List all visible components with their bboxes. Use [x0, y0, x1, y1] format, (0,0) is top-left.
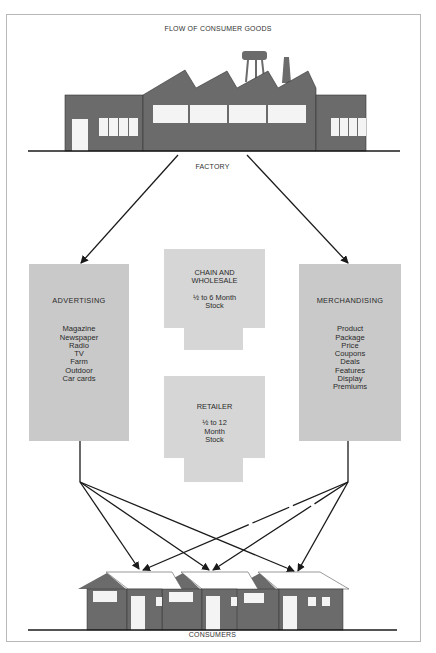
consumer-houses [28, 572, 397, 630]
chain-wholesale-title-2: WHOLESALE [164, 277, 265, 285]
consumer-arrows [80, 482, 348, 571]
chain-wholesale-stock-2: Stock [164, 302, 265, 310]
retailer-stock-3: Stock [164, 436, 265, 444]
edge-factory-merchandising [247, 155, 348, 263]
factory-label: FACTORY [0, 163, 425, 170]
list-item: Premiums [299, 383, 401, 391]
chimney-icon [282, 57, 291, 83]
consumers-label: CONSUMERS [0, 631, 425, 638]
advertising-media-list: Magazine Newspaper Radio TV Farm Outdoor… [29, 325, 129, 383]
advertising-title: ADVERTISING [29, 297, 129, 305]
factory-illustration [28, 51, 400, 151]
chain-wholesale-text: CHAIN AND WHOLESALE ½ to 6 Month Stock [164, 269, 265, 311]
retailer-title: RETAILER [164, 403, 265, 411]
advertising-box: ADVERTISING Magazine Newspaper Radio TV … [29, 264, 129, 441]
edge-factory-advertising [81, 155, 178, 263]
merchandising-title: MERCHANDISING [299, 297, 401, 305]
retailer-text: RETAILER ½ to 12 Month Stock [164, 403, 265, 445]
merchandising-methods-list: Product Package Price Coupons Deals Feat… [299, 325, 401, 391]
list-item: Car cards [29, 375, 129, 383]
merchandising-box: MERCHANDISING Product Package Price Coup… [299, 264, 401, 441]
